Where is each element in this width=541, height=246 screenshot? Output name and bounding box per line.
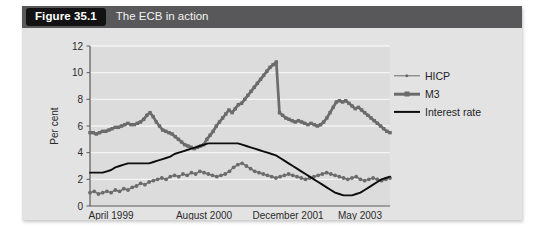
figure-title: The ECB in action (116, 11, 209, 23)
legend-swatch-hicp (394, 71, 420, 82)
legend-item-m3: M3 (394, 88, 481, 100)
x-tick-label: August 2000 (176, 210, 233, 220)
legend-label-interest-rate: Interest rate (425, 107, 481, 118)
legend-item-interest-rate: Interest rate (394, 106, 481, 118)
chart-area: 024681012 Per cent April 1999August 2000… (22, 28, 522, 220)
y-tick-label: 6 (77, 121, 83, 132)
chart-legend: HICP M3 Interest rate (394, 70, 481, 118)
legend-item-hicp: HICP (394, 70, 481, 82)
figure-number-badge: Figure 35.1 (26, 8, 106, 27)
y-axis-label: Per cent (49, 107, 60, 144)
legend-swatch-interest-rate (394, 107, 420, 118)
chart-plot: 024681012 Per cent April 1999August 2000… (22, 28, 522, 220)
legend-label-hicp: HICP (425, 71, 450, 82)
x-tick-label: April 1999 (88, 210, 133, 220)
x-axis-tick-labels: April 1999August 2000December 2001May 20… (88, 210, 382, 220)
y-axis-ticks: 024681012 (72, 41, 90, 212)
y-tick-label: 10 (72, 67, 84, 78)
y-tick-label: 12 (72, 41, 84, 52)
legend-swatch-m3 (394, 89, 420, 100)
y-tick-label: 0 (77, 201, 83, 212)
x-tick-label: December 2001 (252, 210, 324, 220)
y-tick-label: 8 (77, 94, 83, 105)
x-tick-label: May 2003 (338, 210, 382, 220)
figure-title-bar: Figure 35.1 The ECB in action (22, 6, 522, 28)
legend-label-m3: M3 (425, 89, 440, 100)
y-tick-label: 2 (77, 174, 83, 185)
y-tick-label: 4 (77, 147, 83, 158)
figure-card: Figure 35.1 The ECB in action 024681012 … (22, 6, 522, 220)
